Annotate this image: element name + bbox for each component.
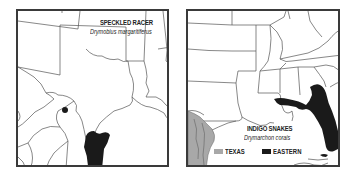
indigo-snakes-map: INDIGO SNAKES Drymarchon corais TEXAS EA… [186,9,340,167]
legend-label-texas: TEXAS [225,148,245,155]
range-area [84,131,110,167]
legend-item-texas: TEXAS [214,148,248,155]
map-title: INDIGO SNAKES [247,125,292,132]
map-title: SPECKLED RACER [100,19,153,26]
scientific-name: Drymobius margaritiferus [90,28,152,35]
legend-label-eastern: EASTERN [273,148,301,155]
locality-dot [62,107,68,113]
speckled-racer-map: SPECKLED RACER Drymobius margaritiferus [16,9,169,167]
eastern-range-area [274,84,339,151]
legend-swatch-texas [214,149,223,154]
scientific-name: Drymarchon corais [244,134,290,141]
southeast-us-map [188,11,340,167]
legend-item-eastern: EASTERN [262,148,306,155]
texas-range-area [188,111,215,167]
legend-swatch-eastern [262,149,271,154]
